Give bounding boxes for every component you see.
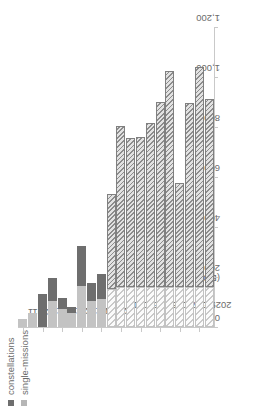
chart-root: constellations single-missions (EO) 0200… (0, 0, 254, 420)
bar-segment-single-missions (116, 287, 125, 327)
bar-group (136, 137, 145, 327)
category-axis-tick (199, 328, 200, 332)
bar-segment-constellations (205, 100, 214, 288)
bar-group (18, 320, 27, 328)
bar-group (165, 71, 174, 327)
category-axis-line (18, 327, 214, 328)
value-axis-tick (214, 277, 218, 278)
bar-segment-constellations (195, 67, 204, 287)
value-axis-tick (214, 27, 218, 28)
bar-segment-single-missions (87, 301, 96, 327)
bar-group (38, 295, 47, 328)
legend-label: single-missions (20, 330, 30, 395)
bar-segment-single-missions (107, 290, 116, 328)
category-axis-tick (43, 328, 44, 332)
bar-segment-single-missions (156, 287, 165, 327)
plot-area: (EO) 02004006008001,0001,200201120132015… (18, 28, 214, 328)
bar-segment-single-missions (126, 287, 135, 327)
bar-segment-single-missions (58, 310, 67, 328)
square-marker-icon (8, 400, 14, 406)
legend-item-single-missions: single-missions (20, 330, 30, 406)
bar-segment-constellations (107, 195, 116, 290)
bar-segment-constellations (136, 137, 145, 287)
bar-segment-constellations (116, 126, 125, 287)
bar-segment-constellations (97, 275, 106, 300)
bar-group (48, 278, 57, 327)
bar-segment-single-missions (175, 287, 184, 327)
bar-group (205, 100, 214, 328)
bar-segment-single-missions (77, 286, 86, 327)
rotated-figure: constellations single-missions (EO) 0200… (0, 0, 254, 420)
category-axis-tick (82, 328, 83, 332)
bar-segment-constellations (165, 71, 174, 287)
value-axis-tick (214, 127, 218, 128)
bar-segment-constellations (87, 283, 96, 301)
value-axis-tick (214, 77, 218, 78)
chart-legend: constellations single-missions (6, 330, 29, 406)
bar-segment-constellations (38, 295, 47, 328)
bar-segment-single-missions (146, 287, 155, 327)
bar-segment-constellations (58, 298, 67, 309)
value-axis-label: 1,200 (196, 13, 220, 24)
bar-segment-constellations (77, 246, 86, 286)
bar-group (156, 102, 165, 327)
square-marker-icon (21, 400, 27, 406)
bar-group (77, 246, 86, 327)
bar-group (146, 123, 155, 327)
bar-group (58, 298, 67, 327)
value-axis-tick (214, 227, 218, 228)
bar-segment-single-missions (165, 287, 174, 327)
bar-segment-constellations (175, 183, 184, 287)
bar-segment-single-missions (18, 320, 27, 328)
bar-segment-single-missions (48, 301, 57, 327)
bar-group (28, 313, 37, 327)
category-axis-tick (101, 328, 102, 332)
bar-segment-constellations (48, 278, 57, 301)
bar-group (185, 103, 194, 327)
bar-segment-single-missions (97, 300, 106, 328)
category-axis-tick (121, 328, 122, 332)
bar-group (116, 126, 125, 327)
category-axis-tick (160, 328, 161, 332)
bar-segment-constellations (156, 102, 165, 287)
bar-segment-single-missions (67, 313, 76, 327)
value-axis-tick (214, 327, 218, 328)
bar-segment-constellations (126, 138, 135, 287)
bar-segment-constellations (67, 307, 76, 313)
bar-group (195, 67, 204, 327)
category-axis-tick (62, 328, 63, 332)
bar-segment-single-missions (136, 287, 145, 327)
bar-group (107, 195, 116, 328)
category-axis-tick (180, 328, 181, 332)
bar-segment-single-missions (28, 313, 37, 327)
category-axis-tick (141, 328, 142, 332)
bar-group (126, 138, 135, 327)
bar-segment-constellations (146, 123, 155, 287)
bar-group (87, 283, 96, 327)
bar-group (175, 183, 184, 327)
category-axis-tick (23, 328, 24, 332)
bar-segment-single-missions (185, 287, 194, 327)
value-axis-tick (214, 177, 218, 178)
value-axis-label: 0 (215, 313, 220, 324)
bar-segment-single-missions (205, 287, 214, 327)
legend-item-constellations: constellations (6, 330, 16, 406)
bar-group (67, 307, 76, 327)
bar-segment-constellations (185, 103, 194, 287)
legend-label: constellations (6, 337, 16, 395)
bar-group (97, 275, 106, 328)
bar-segment-single-missions (195, 287, 204, 327)
